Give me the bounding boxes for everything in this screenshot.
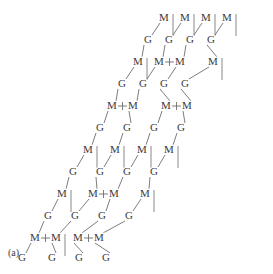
- bond-diagonal: [194, 23, 202, 35]
- node-glycan: G: [96, 165, 104, 177]
- node-glycan: G: [186, 33, 194, 45]
- node-monomer: M: [154, 55, 164, 67]
- bond-diagonal: [79, 199, 89, 211]
- node-glycan: G: [207, 33, 215, 45]
- node-monomer: M: [30, 231, 40, 243]
- node-monomer: M: [109, 187, 119, 199]
- node-glycan: G: [139, 77, 147, 89]
- node-monomer: M: [94, 231, 104, 243]
- node-monomer: M: [159, 11, 169, 23]
- node-glycan: G: [44, 209, 52, 221]
- node-layer: MMMMGGGGMMMMGGGGMMMMGGGGMMMMGGGGMMMMGGGG…: [18, 11, 232, 263]
- bond-diagonal: [158, 111, 162, 123]
- node-monomer: M: [182, 99, 192, 111]
- node-glycan: G: [165, 33, 173, 45]
- bond-diagonal: [26, 243, 31, 253]
- node-glycan: G: [181, 77, 189, 89]
- node-monomer: M: [51, 231, 61, 243]
- node-glycan: G: [125, 209, 133, 221]
- node-glycan: G: [150, 121, 158, 133]
- node-glycan: G: [123, 165, 131, 177]
- bond-diagonal: [52, 199, 58, 211]
- node-glycan: G: [123, 121, 131, 133]
- node-glycan: G: [48, 251, 56, 263]
- node-glycan: G: [177, 121, 185, 133]
- node-glycan: G: [98, 209, 106, 221]
- node-glycan: G: [102, 251, 110, 263]
- node-glycan: G: [75, 251, 83, 263]
- bond-diagonal: [215, 23, 223, 35]
- node-monomer: M: [164, 143, 174, 155]
- node-monomer: M: [83, 143, 93, 155]
- lattice-diagram: MMMMGGGGMMMMGGGGMMMMGGGGMMMMGGGGMMMMGGGG…: [0, 0, 273, 274]
- node-monomer: M: [107, 99, 117, 111]
- node-monomer: M: [133, 55, 143, 67]
- node-glycan: G: [144, 33, 152, 45]
- node-glycan: G: [160, 77, 168, 89]
- bond-diagonal: [106, 199, 110, 211]
- bond-diagonal: [173, 23, 181, 35]
- node-glycan: G: [69, 165, 77, 177]
- figure-panel: MMMMGGGGMMMMGGGGMMMMGGGGMMMMGGGGMMMMGGGG…: [0, 0, 273, 274]
- node-glycan: G: [18, 251, 26, 263]
- node-glycan: G: [150, 165, 158, 177]
- node-monomer: M: [175, 55, 185, 67]
- node-glycan: G: [118, 77, 126, 89]
- node-monomer: M: [140, 187, 150, 199]
- node-monomer: M: [128, 99, 138, 111]
- bond-diagonal: [104, 111, 108, 123]
- node-glycan: G: [71, 209, 79, 221]
- node-monomer: M: [222, 11, 232, 23]
- bond-diagonal: [131, 155, 138, 167]
- bond-diagonal: [77, 155, 84, 167]
- bond-diagonal: [60, 221, 71, 233]
- bond-diagonal: [158, 155, 165, 167]
- bond-diagonal: [133, 199, 141, 211]
- bond-diagonal: [103, 221, 125, 233]
- node-monomer: M: [110, 143, 120, 155]
- node-monomer: M: [88, 187, 98, 199]
- node-monomer: M: [137, 143, 147, 155]
- node-glycan: G: [96, 121, 104, 133]
- node-monomer: M: [57, 187, 67, 199]
- bond-diagonal: [152, 23, 160, 35]
- panel-caption: (a): [8, 247, 19, 258]
- bond-diagonal: [147, 67, 155, 79]
- node-monomer: M: [180, 11, 190, 23]
- node-monomer: M: [201, 11, 211, 23]
- node-monomer: M: [73, 231, 83, 243]
- bond-diagonal: [168, 67, 176, 79]
- node-monomer: M: [161, 99, 171, 111]
- node-monomer: M: [208, 55, 218, 67]
- bond-diagonal: [189, 67, 209, 79]
- bond-diagonal: [104, 155, 111, 167]
- bond-diagonal: [126, 67, 134, 79]
